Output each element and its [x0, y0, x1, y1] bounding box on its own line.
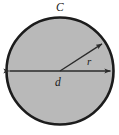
circle-diagram-canvas: C r d: [0, 0, 119, 135]
circle-diagram-figure: C r d: [0, 0, 119, 135]
diameter-label: d: [55, 76, 61, 88]
circumference-label: C: [56, 1, 64, 13]
radius-label: r: [87, 55, 92, 67]
